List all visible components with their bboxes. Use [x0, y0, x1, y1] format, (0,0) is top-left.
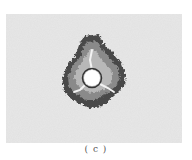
- borehole: [84, 70, 100, 86]
- simulation-figure-panel: [6, 14, 182, 143]
- panel-label: ( c ): [0, 144, 192, 154]
- damage-zone-plot: [6, 14, 182, 143]
